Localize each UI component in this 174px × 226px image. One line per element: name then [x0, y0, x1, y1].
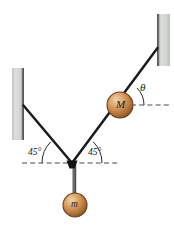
angle-label-theta: θ	[140, 82, 145, 93]
mass-label-M: M	[116, 99, 125, 110]
mass-label-m: m	[71, 200, 78, 210]
wall-bracket-right	[157, 14, 170, 66]
diagram-canvas	[0, 0, 174, 226]
angle-label-right-45: 45°	[88, 148, 101, 158]
wall-bracket-left	[12, 68, 24, 140]
physics-diagram-figure: 45° 45° θ M m	[0, 0, 174, 226]
angle-label-left-45: 45°	[28, 148, 41, 158]
angle-arc-left-45	[42, 142, 51, 163]
